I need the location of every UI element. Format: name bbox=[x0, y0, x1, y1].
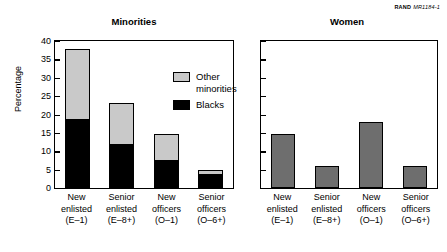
x-axis-category-label: Newofficers(O–1) bbox=[144, 192, 189, 227]
x-axis-category-label: Newofficers(O–1) bbox=[349, 192, 394, 227]
y-axis-tick-label-20: 20 bbox=[41, 110, 51, 120]
bar-slot bbox=[403, 41, 428, 188]
y-axis-tick-5: 5 bbox=[55, 170, 60, 171]
y-axis-tick-40: 40 bbox=[55, 41, 60, 42]
x-axis-category-line: Senior bbox=[189, 192, 234, 204]
stacked-bar bbox=[154, 134, 179, 188]
x-axis-category-line: (O–6+) bbox=[189, 215, 234, 227]
x-axis-category-line: (O–1) bbox=[144, 215, 189, 227]
bar-segment-other-minorities bbox=[155, 135, 178, 160]
source-credit-brand: RAND bbox=[394, 4, 411, 10]
x-axis-category-label: Seniorofficers(O–6+) bbox=[394, 192, 439, 227]
bar-slot bbox=[109, 41, 134, 188]
x-axis-category-label: Newenlisted(E–1) bbox=[54, 192, 99, 227]
bar-segment-other-minorities bbox=[66, 50, 89, 118]
y-axis-tick-0 bbox=[261, 188, 266, 189]
x-axis-category-line: New bbox=[349, 192, 394, 204]
y-axis-tick-35 bbox=[261, 59, 266, 60]
x-axis-labels-minorities: Newenlisted(E–1)Seniorenlisted(E–8+)Newo… bbox=[54, 192, 234, 227]
x-axis-category-line: enlisted bbox=[260, 204, 305, 216]
x-axis-category-line: officers bbox=[349, 204, 394, 216]
bar-segment-other-minorities bbox=[110, 104, 133, 144]
bar-women bbox=[271, 134, 296, 188]
x-axis-category-line: New bbox=[260, 192, 305, 204]
y-axis-tick-15 bbox=[261, 133, 266, 134]
x-axis-category-line: Senior bbox=[394, 192, 439, 204]
x-axis-category-line: New bbox=[144, 192, 189, 204]
bar-women bbox=[403, 166, 428, 188]
plot-area-minorities: Other minorities Blacks 4035302520151050 bbox=[54, 40, 234, 189]
x-axis-category-line: (E–1) bbox=[54, 215, 99, 227]
y-axis-tick-30 bbox=[261, 78, 266, 79]
y-axis-title: Percentage bbox=[13, 44, 23, 134]
x-axis-category-line: enlisted bbox=[99, 204, 144, 216]
stacked-bar bbox=[198, 170, 223, 188]
y-axis-tick-25: 25 bbox=[55, 96, 60, 97]
y-axis-tick-label-5: 5 bbox=[46, 165, 51, 175]
x-axis-category-line: (E–1) bbox=[260, 215, 305, 227]
x-axis-category-line: officers bbox=[144, 204, 189, 216]
y-axis-tick-30: 30 bbox=[55, 78, 60, 79]
x-axis-category-line: (O–6+) bbox=[394, 215, 439, 227]
x-axis-category-line: New bbox=[54, 192, 99, 204]
bar-women bbox=[359, 122, 384, 188]
y-axis-tick-label-0: 0 bbox=[46, 183, 51, 193]
x-axis-category-line: enlisted bbox=[54, 204, 99, 216]
y-axis-tick-20: 20 bbox=[55, 115, 60, 116]
bar-segment-blacks bbox=[110, 144, 133, 187]
y-axis-tick-25 bbox=[261, 96, 266, 97]
y-axis-tick-5 bbox=[261, 170, 266, 171]
x-axis-category-label: Seniorofficers(O–6+) bbox=[189, 192, 234, 227]
x-axis-category-line: officers bbox=[394, 204, 439, 216]
bar-segment-blacks bbox=[155, 160, 178, 187]
y-axis-tick-label-15: 15 bbox=[41, 128, 51, 138]
y-axis-tick-20 bbox=[261, 115, 266, 116]
bar-segment-blacks bbox=[199, 174, 222, 187]
y-axis-tick-label-35: 35 bbox=[41, 54, 51, 64]
bar-women bbox=[315, 166, 340, 188]
y-axis-tick-label-10: 10 bbox=[41, 146, 51, 156]
stacked-bar bbox=[65, 49, 90, 188]
y-axis-tick-10: 10 bbox=[55, 151, 60, 152]
panel-title-women: Women bbox=[252, 16, 442, 27]
y-axis-tick-label-25: 25 bbox=[41, 91, 51, 101]
x-axis-category-line: officers bbox=[189, 204, 234, 216]
bar-slot bbox=[271, 41, 296, 188]
source-credit: RANDMR1184-1 bbox=[394, 4, 440, 10]
x-axis-category-label: Newenlisted(E–1) bbox=[260, 192, 305, 227]
y-axis-tick-label-40: 40 bbox=[41, 36, 51, 46]
x-axis-category-line: Senior bbox=[305, 192, 350, 204]
y-axis-tick-35: 35 bbox=[55, 59, 60, 60]
x-axis-category-label: Seniorenlisted(E–8+) bbox=[99, 192, 144, 227]
y-axis-tick-label-30: 30 bbox=[41, 73, 51, 83]
panel-title-minorities: Minorities bbox=[6, 16, 238, 27]
x-axis-category-label: Seniorenlisted(E–8+) bbox=[305, 192, 350, 227]
y-axis-tick-0: 0 bbox=[55, 188, 60, 189]
plot-area-women bbox=[260, 40, 438, 189]
source-credit-id: MR1184-1 bbox=[413, 4, 440, 10]
x-axis-category-line: Senior bbox=[99, 192, 144, 204]
bar-slot bbox=[315, 41, 340, 188]
y-axis-tick-40 bbox=[261, 41, 266, 42]
bar-slot bbox=[65, 41, 90, 188]
bar-slot bbox=[154, 41, 179, 188]
x-axis-category-line: enlisted bbox=[305, 204, 350, 216]
stacked-bar bbox=[109, 103, 134, 188]
bar-segment-blacks bbox=[66, 119, 89, 187]
y-axis-tick-15: 15 bbox=[55, 133, 60, 134]
x-axis-category-line: (E–8+) bbox=[305, 215, 350, 227]
x-axis-category-line: (E–8+) bbox=[99, 215, 144, 227]
x-axis-category-line: (O–1) bbox=[349, 215, 394, 227]
y-axis-tick-10 bbox=[261, 151, 266, 152]
x-axis-labels-women: Newenlisted(E–1)Seniorenlisted(E–8+)Newo… bbox=[260, 192, 438, 227]
bar-slot bbox=[359, 41, 384, 188]
bar-slot bbox=[198, 41, 223, 188]
